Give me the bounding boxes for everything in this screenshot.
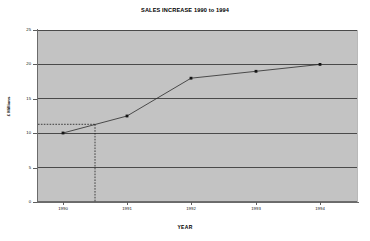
data-point-1990 — [62, 132, 65, 135]
sales-increase-line-chart: SALES INCREASE 1990 to 1994 0 5 10 15 20… — [0, 0, 370, 241]
data-point-1993 — [255, 70, 258, 73]
data-point-1991 — [126, 115, 129, 118]
data-point-1992 — [190, 77, 193, 80]
sales-line — [63, 64, 320, 133]
data-point-1994 — [319, 63, 322, 66]
series-layer — [0, 0, 370, 241]
